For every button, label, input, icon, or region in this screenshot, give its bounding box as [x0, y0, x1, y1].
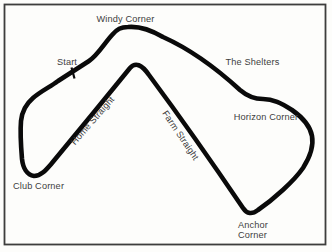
label-the-shelters: The Shelters	[226, 57, 280, 67]
label-club-corner: Club Corner	[13, 181, 64, 191]
label-anchor-corner-line2: Corner	[238, 230, 267, 240]
label-start: Start	[57, 57, 77, 67]
label-windy-corner: Windy Corner	[97, 14, 155, 24]
circuit-map: Windy Corner Start The Shelters Horizon …	[0, 0, 332, 252]
label-horizon-corner: Horizon Corner	[234, 112, 298, 122]
circuit-map-canvas: Windy Corner Start The Shelters Horizon …	[0, 0, 332, 252]
label-anchor-corner-line1: Anchor	[238, 220, 268, 230]
